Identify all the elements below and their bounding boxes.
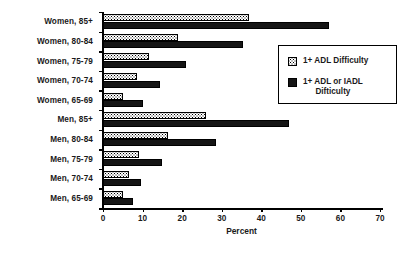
x-axis-tick-label: 40	[257, 214, 266, 223]
category-label: Men, 75-79	[50, 155, 93, 164]
dotted-pattern-swatch-icon	[288, 57, 297, 66]
x-axis-tick-label: 50	[296, 214, 305, 223]
bar-adl	[103, 93, 123, 100]
x-axis-tick-label: 30	[217, 214, 226, 223]
x-axis-tick	[103, 208, 104, 212]
x-axis-tick	[261, 208, 262, 212]
bar-adliadl	[103, 179, 141, 186]
y-axis-tick	[99, 149, 103, 150]
bar-adl	[103, 151, 139, 158]
category-label: Men, 80-84	[50, 135, 93, 144]
x-axis-tick-label: 70	[375, 214, 384, 223]
bar-adliadl	[103, 139, 216, 146]
x-axis-tick-label: 10	[138, 214, 147, 223]
bar-adl	[103, 112, 206, 119]
legend-item-adl-iadl: 1+ ADL or IADL Difticulty	[288, 77, 363, 97]
bar-adl	[103, 34, 178, 41]
y-axis-tick	[99, 71, 103, 72]
bar-adl	[103, 73, 137, 80]
category-label: Women, 85+	[44, 17, 93, 26]
bar-adliadl	[103, 198, 133, 205]
category-label: Men, 70-74	[50, 174, 93, 183]
bar-adliadl	[103, 22, 329, 29]
bar-adl	[103, 14, 249, 21]
legend: 1+ ADL Difficulty 1+ ADL or IADL Difticu…	[278, 45, 397, 104]
y-axis-tick	[99, 188, 103, 189]
bar-adliadl	[103, 120, 289, 127]
category-axis-labels: Women, 85+Women, 80-84Women, 75-79Women,…	[0, 12, 98, 208]
bar-adliadl	[103, 61, 186, 68]
bar-chart: Women, 85+Women, 80-84Women, 75-79Women,…	[0, 0, 420, 253]
bar-adl	[103, 53, 149, 60]
bar-adl	[103, 132, 168, 139]
x-axis-tick	[301, 208, 302, 212]
y-axis-tick	[99, 51, 103, 52]
y-axis-tick	[99, 32, 103, 33]
bar-adliadl	[103, 81, 160, 88]
bar-adliadl	[103, 159, 162, 166]
y-axis-tick	[99, 130, 103, 131]
legend-item-adl: 1+ ADL Difficulty	[288, 56, 368, 66]
legend-label-adl: 1+ ADL Difficulty	[303, 56, 368, 66]
x-axis-tick	[340, 208, 341, 212]
y-axis-tick	[99, 169, 103, 170]
y-axis-tick	[99, 110, 103, 111]
category-label: Women, 75-79	[37, 57, 93, 66]
solid-black-swatch-icon	[288, 78, 297, 87]
category-label: Men, 85+	[57, 115, 93, 124]
x-axis-title: Percent	[103, 226, 380, 236]
plot-area: 010203040506070	[103, 12, 380, 208]
x-axis-tick	[222, 208, 223, 212]
x-axis-tick-label: 20	[178, 214, 187, 223]
category-label: Women, 70-74	[37, 76, 93, 85]
x-axis-tick-label: 0	[101, 214, 106, 223]
category-label: Women, 80-84	[37, 37, 93, 46]
x-axis-tick	[380, 208, 381, 212]
category-label: Women, 65-69	[37, 96, 93, 105]
x-axis-tick	[182, 208, 183, 212]
category-label: Men, 65-69	[50, 194, 93, 203]
x-axis-tick-label: 60	[336, 214, 345, 223]
bar-adl	[103, 171, 129, 178]
y-axis-tick	[99, 90, 103, 91]
legend-label-adl-iadl: 1+ ADL or IADL Difticulty	[303, 77, 363, 97]
y-axis-tick	[99, 12, 103, 13]
bar-adliadl	[103, 100, 143, 107]
bar-adliadl	[103, 41, 243, 48]
bar-adl	[103, 191, 123, 198]
x-axis-tick	[143, 208, 144, 212]
